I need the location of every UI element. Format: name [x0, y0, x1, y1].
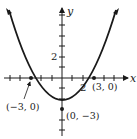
- y-axis-label: y: [66, 5, 74, 18]
- point-label-0-neg3: (0, −3): [66, 110, 100, 121]
- parabola-graph: y x 2 2 (−3, 0) (3, 0) (0, −3): [0, 0, 137, 139]
- point-label-neg3-0: (−3, 0): [6, 101, 40, 112]
- x-tick-label: 2: [80, 82, 86, 93]
- point-label-3-0: (3, 0): [92, 81, 118, 92]
- y-tick-label: 2: [51, 51, 57, 62]
- point-3-0: [92, 76, 96, 80]
- graph-canvas: y x 2 2 (−3, 0) (3, 0) (0, −3): [0, 0, 137, 139]
- point-0-neg3: [60, 107, 64, 111]
- point-neg3-0: [29, 76, 33, 80]
- x-axis-label: x: [130, 72, 137, 85]
- annotation-arrow: [24, 82, 30, 99]
